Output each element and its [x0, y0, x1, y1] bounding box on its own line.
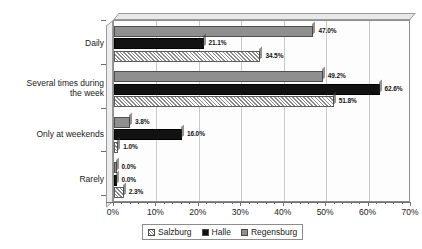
- bar-3d-cap: [123, 183, 126, 197]
- x-axis-minor-tick: [249, 202, 250, 204]
- legend-item-halle: Halle: [202, 227, 231, 237]
- x-axis-minor-tick: [300, 202, 301, 204]
- x-axis-minor-tick: [189, 202, 190, 204]
- bar-3d-cap: [379, 79, 382, 93]
- legend-item-salzburg: Salzburg: [148, 227, 192, 237]
- legend-item-regensburg: Regensburg: [241, 227, 297, 237]
- value-label: 49.2%: [328, 72, 346, 79]
- gridline: [241, 21, 242, 201]
- x-axis-minor-tick: [274, 202, 275, 204]
- x-axis-minor-tick: [317, 202, 318, 204]
- x-axis-tick: [283, 202, 284, 206]
- bar-halle: [114, 175, 117, 186]
- bar-salzburg: [114, 142, 118, 153]
- value-label: 0.0%: [122, 163, 136, 170]
- x-axis-tick-label: 70%: [390, 207, 422, 217]
- x-axis-minor-tick: [223, 202, 224, 204]
- bar-3d-cap: [129, 112, 132, 126]
- x-axis-tick-label: 10%: [135, 207, 175, 217]
- gridline: [369, 21, 370, 201]
- legend-label: Salzburg: [158, 227, 192, 237]
- bar-3d-cap: [203, 34, 206, 48]
- bar-3d-cap: [333, 92, 336, 106]
- x-axis-minor-tick: [181, 202, 182, 204]
- x-axis-tick: [410, 202, 411, 206]
- x-axis-minor-tick: [266, 202, 267, 204]
- bar-3d-cap: [322, 67, 325, 81]
- x-axis-tick: [240, 202, 241, 206]
- y-axis-tick: [101, 20, 106, 21]
- value-label: 3.8%: [135, 118, 149, 125]
- value-label: 47.0%: [318, 27, 336, 34]
- bar-3d-cap: [116, 158, 119, 172]
- legend-swatch-icon: [241, 229, 248, 236]
- x-axis-minor-tick: [138, 202, 139, 204]
- x-axis-tick-label: 20%: [178, 207, 218, 217]
- value-label: 0.0%: [122, 176, 136, 183]
- x-axis-minor-tick: [215, 202, 216, 204]
- chart-legend: SalzburgHalleRegensburg: [142, 224, 303, 240]
- x-axis-tick: [155, 202, 156, 206]
- x-axis-tick-label: 40%: [263, 207, 303, 217]
- legend-swatch-icon: [148, 229, 155, 236]
- category-label: Only at weekends: [0, 129, 104, 139]
- category-axis-labels: DailySeveral times during the weekOnly a…: [0, 20, 104, 202]
- y-axis-tick: [101, 151, 106, 152]
- category-label: Rarely: [0, 174, 104, 184]
- x-axis-minor-tick: [334, 202, 335, 204]
- category-label: Several times during the week: [0, 78, 104, 98]
- x-axis-tick-label: 30%: [220, 207, 260, 217]
- x-axis-minor-tick: [121, 202, 122, 204]
- bar-salzburg: [114, 187, 124, 198]
- y-axis-tick: [101, 64, 106, 65]
- value-label: 1.0%: [123, 143, 137, 150]
- x-axis-minor-tick: [147, 202, 148, 204]
- bar-regensburg: [114, 117, 130, 128]
- bar-3d-cap: [117, 137, 120, 151]
- legend-swatch-icon: [202, 229, 209, 236]
- plot-3d-top-face: [113, 13, 416, 20]
- x-axis-tick: [198, 202, 199, 206]
- x-axis-minor-tick: [393, 202, 394, 204]
- x-axis-tick-label: 0%: [93, 207, 133, 217]
- x-axis-tick-label: 50%: [305, 207, 345, 217]
- value-label: 51.8%: [339, 97, 357, 104]
- gridline: [284, 21, 285, 201]
- value-label: 34.5%: [265, 52, 283, 59]
- legend-label: Halle: [212, 227, 231, 237]
- x-axis-tick: [113, 202, 114, 206]
- x-axis-minor-tick: [342, 202, 343, 204]
- x-axis-minor-tick: [130, 202, 131, 204]
- bar-halle: [114, 38, 204, 49]
- x-axis-minor-tick: [172, 202, 173, 204]
- x-axis-minor-tick: [291, 202, 292, 204]
- plot-area: [113, 20, 410, 202]
- y-axis-tick: [101, 108, 106, 109]
- category-label: Daily: [0, 38, 104, 48]
- bar-3d-cap: [312, 21, 315, 35]
- x-axis-tick: [368, 202, 369, 206]
- bar-3d-cap: [181, 125, 184, 139]
- x-axis-minor-tick: [376, 202, 377, 204]
- x-axis-minor-tick: [206, 202, 207, 204]
- bar-regensburg: [114, 71, 323, 82]
- x-axis-minor-tick: [164, 202, 165, 204]
- bar-halle: [114, 84, 380, 95]
- value-label: 2.3%: [129, 188, 143, 195]
- gridline: [326, 21, 327, 201]
- x-axis-tick-label: 60%: [348, 207, 388, 217]
- x-axis-minor-tick: [359, 202, 360, 204]
- x-axis-minor-tick: [385, 202, 386, 204]
- bar-salzburg: [114, 96, 334, 107]
- x-axis-tick: [325, 202, 326, 206]
- bar-salzburg: [114, 51, 260, 62]
- y-axis-tick: [101, 195, 106, 196]
- x-axis-minor-tick: [257, 202, 258, 204]
- value-label: 21.1%: [209, 39, 227, 46]
- x-axis-minor-tick: [402, 202, 403, 204]
- plot-3d-left-face: [106, 20, 113, 208]
- value-label: 62.6%: [385, 85, 403, 92]
- x-axis-minor-tick: [308, 202, 309, 204]
- bar-halle: [114, 129, 182, 140]
- legend-label: Regensburg: [251, 227, 297, 237]
